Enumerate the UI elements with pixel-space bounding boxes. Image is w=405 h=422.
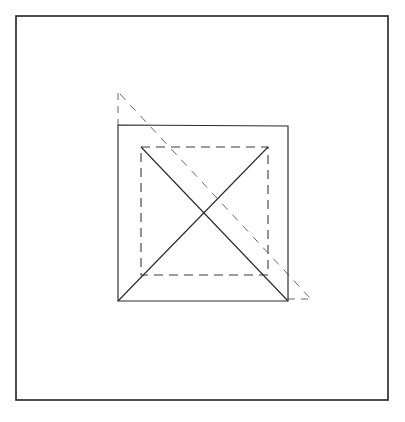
outer-border-rect [16, 16, 388, 400]
dashed-diagonal-extended-line [120, 94, 310, 298]
geometric-figure-canvas [0, 0, 405, 422]
figure-page [0, 0, 405, 422]
solid-diagonal-tl-br-line [141, 147, 288, 301]
